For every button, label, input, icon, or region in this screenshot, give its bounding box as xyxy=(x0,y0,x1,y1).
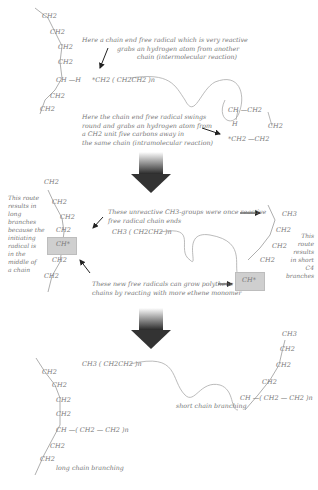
note-long-line: radical is xyxy=(8,242,48,250)
short-branch-point: CH —( CH2 — CH2 )n xyxy=(240,394,313,402)
note-intermolecular-line: grabs an hydrogen atom from another xyxy=(82,45,248,54)
note-long-line: in the xyxy=(8,250,48,258)
chain-unit: CH2 xyxy=(50,28,65,36)
note-unreactive-line: free radical chain ends xyxy=(108,217,266,226)
note-intramolecular-line: the same chain (intramolecular reaction) xyxy=(82,139,213,148)
note-long-line: results in xyxy=(8,202,48,210)
radical-chain: *CH2 ( CH2CH2 )n xyxy=(92,76,155,84)
note-long-line: long branches xyxy=(8,210,48,226)
note-long-line: initiating xyxy=(8,234,48,242)
note-intramolecular-line: a CH2 unit five carbons away in xyxy=(82,130,213,139)
note-short-line: route xyxy=(286,240,314,248)
chain-unit: CH2 xyxy=(56,396,71,404)
note-short-line: C4 branches xyxy=(286,264,314,280)
ring-h: H xyxy=(232,120,238,128)
note-short-line: This xyxy=(286,232,314,240)
dead-chain: CH3 ( CH2CH2 )n xyxy=(82,360,142,368)
chain-unit: CH2 xyxy=(40,455,55,463)
note-long-line: because the xyxy=(8,226,48,234)
chain-unit: CH2 xyxy=(42,12,57,20)
note-intermolecular-line: chain (intermolecular reaction) xyxy=(82,53,248,62)
note-long-line: This route xyxy=(8,194,48,202)
short-chain-label: short chain branching xyxy=(176,402,247,411)
branch-unit: CH2 xyxy=(280,345,295,353)
chain-unit: CH2 xyxy=(56,226,71,234)
note-grow-line: These new free radicals can grow polythe… xyxy=(92,280,242,289)
note-intramolecular-line: round and grabs an hydrogen atom from xyxy=(82,122,213,131)
ring-right: CH2 xyxy=(268,122,283,130)
long-branch-point: CH —( CH2 — CH2 )n xyxy=(56,426,129,434)
branch-unit: CH3 xyxy=(282,210,297,218)
chain-unit: CH2 xyxy=(40,105,55,113)
chain-unit: CH2 xyxy=(60,213,75,221)
note-long-line: middle of xyxy=(8,258,48,266)
branch-unit: CH3 xyxy=(282,330,297,338)
note-long-line: a chain xyxy=(8,266,48,274)
note-intermolecular-line: Here a chain end free radical which is v… xyxy=(82,36,248,45)
chain-unit: CH2 xyxy=(50,92,65,100)
ring-top: CH —CH2 xyxy=(228,106,262,114)
note-short-line: in short xyxy=(286,256,314,264)
note-grow-line: chains by reacting with more ethene mono… xyxy=(92,289,242,298)
ring-bottom: *CH2 —CH2 xyxy=(228,135,269,143)
dead-chain: CH3 ( CH2CH2 )n xyxy=(112,228,172,236)
chain-unit: CH2 xyxy=(52,198,67,206)
chain-unit-ch-h: CH —H xyxy=(56,76,81,84)
branch-unit: CH2 xyxy=(272,242,287,250)
chain-unit: CH2 xyxy=(52,256,67,264)
chain-unit: CH2 xyxy=(44,178,59,186)
branch-unit: CH2 xyxy=(260,256,275,264)
chain-unit: CH2 xyxy=(56,410,71,418)
radical-ch: CH* xyxy=(56,240,70,248)
chain-unit: CH2 xyxy=(58,58,73,66)
note-unreactive-line: These unreactive CH3-groups were once re… xyxy=(108,208,266,217)
chain-unit: CH2 xyxy=(58,43,73,51)
radical-ch: CH* xyxy=(242,276,256,284)
chain-unit: CH2 xyxy=(50,442,65,450)
note-intramolecular-line: Here the chain end free radical swings xyxy=(82,113,213,122)
branch-unit: CH2 xyxy=(262,378,277,386)
chain-unit: CH2 xyxy=(42,368,57,376)
long-chain-label: long chain branching xyxy=(56,464,124,473)
note-short-line: results xyxy=(286,248,314,256)
branch-unit: CH2 xyxy=(276,361,291,369)
chain-unit: CH2 xyxy=(52,381,67,389)
